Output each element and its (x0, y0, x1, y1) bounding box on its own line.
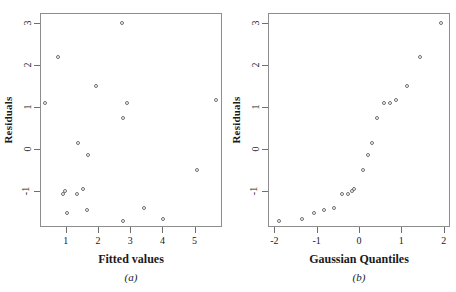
data-point (405, 84, 409, 88)
data-point (394, 98, 398, 102)
data-point (142, 206, 146, 210)
data-point (300, 217, 304, 221)
y-tick-mark (34, 23, 40, 24)
y-tick-label-text: 2 (23, 63, 33, 68)
x-tick-label: 0 (357, 236, 362, 246)
panel-a-residuals-vs-fitted: -1012312345 Residuals Fitted values (a) (0, 0, 228, 292)
data-point (375, 116, 379, 120)
x-tick-label: 1 (399, 236, 404, 246)
y-tick-label-text: 2 (251, 63, 261, 68)
x-tick-mark (274, 227, 275, 233)
panel-b-gaussian-qq: -10123-2-1012 Residuals Gaussian Quantil… (228, 0, 456, 292)
residual-diagnostics-figure: -1012312345 Residuals Fitted values (a) … (0, 0, 456, 292)
x-tick-mark (359, 227, 360, 233)
data-point (56, 55, 60, 59)
y-tick-label-text: 3 (251, 21, 261, 26)
data-point (370, 141, 374, 145)
data-point (418, 55, 422, 59)
data-point (120, 21, 124, 25)
y-tick-mark (34, 65, 40, 66)
x-tick-mark (66, 227, 67, 233)
data-point (361, 168, 365, 172)
plot-area-a (40, 13, 222, 227)
data-point (352, 187, 356, 191)
x-tick-mark (444, 227, 445, 233)
data-point (366, 153, 370, 157)
data-point (43, 101, 47, 105)
data-point (63, 189, 67, 193)
y-tick-label-text: 0 (23, 147, 33, 152)
y-tick-label-text: 1 (23, 105, 33, 110)
data-point (340, 192, 344, 196)
data-point (85, 208, 89, 212)
y-tick-label-text: 3 (23, 21, 33, 26)
data-point (76, 141, 80, 145)
data-point (65, 211, 69, 215)
x-tick-label: -2 (270, 236, 278, 246)
x-axis-title-b: Gaussian Quantiles (309, 252, 409, 267)
panel-caption-b: (b) (353, 271, 366, 283)
x-tick-label: 1 (63, 236, 68, 246)
y-tick-mark (262, 149, 268, 150)
data-point (214, 98, 218, 102)
data-point (94, 84, 98, 88)
y-tick-mark (262, 191, 268, 192)
data-point (388, 101, 392, 105)
y-tick-label-text: -1 (249, 187, 259, 195)
data-point (81, 187, 85, 191)
data-point (439, 21, 443, 25)
y-axis-title-b: Residuals (230, 96, 242, 143)
y-tick-mark (34, 107, 40, 108)
panel-caption-a: (a) (125, 271, 138, 283)
data-point (332, 206, 336, 210)
x-axis-title-a: Fitted values (98, 252, 164, 267)
data-point (121, 116, 125, 120)
x-tick-mark (98, 227, 99, 233)
x-tick-mark (401, 227, 402, 233)
x-tick-label: 2 (95, 236, 100, 246)
data-point (86, 153, 90, 157)
data-point (75, 192, 79, 196)
y-tick-mark (262, 65, 268, 66)
plot-area-b (268, 13, 450, 227)
data-point (161, 217, 165, 221)
y-tick-label-text: 0 (251, 147, 261, 152)
y-tick-mark (34, 191, 40, 192)
x-tick-mark (130, 227, 131, 233)
x-tick-mark (162, 227, 163, 233)
y-axis-title-a: Residuals (2, 96, 14, 143)
data-point (322, 208, 326, 212)
data-point (61, 192, 65, 196)
x-tick-label: 2 (441, 236, 446, 246)
y-tick-mark (34, 149, 40, 150)
y-tick-mark (262, 23, 268, 24)
y-tick-label-text: -1 (21, 187, 31, 195)
x-tick-label: 4 (160, 236, 165, 246)
x-tick-mark (195, 227, 196, 233)
x-tick-label: 3 (128, 236, 133, 246)
y-tick-mark (262, 107, 268, 108)
data-point (312, 211, 316, 215)
x-tick-mark (317, 227, 318, 233)
x-tick-label: 5 (192, 236, 197, 246)
data-point (121, 219, 125, 223)
data-point (195, 168, 199, 172)
x-tick-label: -1 (313, 236, 321, 246)
data-point (125, 101, 129, 105)
y-tick-label-text: 1 (251, 105, 261, 110)
data-point (277, 219, 281, 223)
data-point (382, 101, 386, 105)
